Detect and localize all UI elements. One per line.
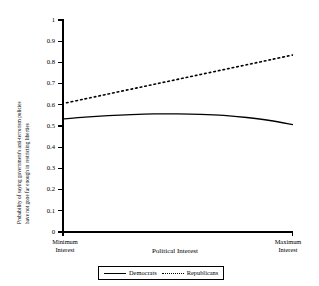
x-axis-label-minimum: Minimum Interest [35, 238, 95, 254]
y-axis-tick-label: 0.8 [15, 59, 55, 66]
y-axis-tick-label: 0 [15, 229, 55, 236]
x-axis-label-maximum-line-1: Maximum [258, 238, 318, 246]
series-line-republicans [62, 55, 293, 104]
series-svg [62, 20, 293, 232]
y-axis-tick-label: 0.9 [15, 38, 55, 45]
y-axis-tick-label: 0.2 [15, 186, 55, 193]
y-axis-tick-label: 1 [15, 17, 55, 24]
x-axis-label-minimum-line-1: Minimum [35, 238, 95, 246]
y-axis-tick-label: 0.3 [15, 165, 55, 172]
y-axis-tick-label: 0.5 [15, 123, 55, 130]
x-axis-title: Political Interest [110, 247, 240, 255]
legend-swatch-solid-icon [104, 273, 126, 274]
x-axis-label-minimum-line-2: Interest [35, 246, 95, 254]
chart-figure: Probability of saying government's anti-… [0, 0, 319, 286]
series-line-democrats [62, 114, 293, 125]
legend-item-republicans: Republicans [162, 270, 219, 276]
chart-legend: Democrats Republicans [98, 266, 224, 280]
legend-item-democrats: Democrats [104, 270, 157, 276]
plot-area [62, 20, 293, 232]
y-axis-tick-label: 0.6 [15, 102, 55, 109]
x-axis-label-maximum: Maximum Interest [258, 238, 318, 254]
y-axis-tick-label: 0.1 [15, 208, 55, 215]
y-axis-tick-label: 0.4 [15, 144, 55, 151]
x-axis-label-maximum-line-2: Interest [258, 246, 318, 254]
legend-swatch-dotted-icon [162, 273, 184, 274]
y-axis-tick-label: 0.7 [15, 80, 55, 87]
legend-label-democrats: Democrats [129, 270, 157, 276]
y-axis-title-line-1: Probability of saying government's anti-… [16, 101, 23, 224]
legend-label-republicans: Republicans [187, 270, 219, 276]
